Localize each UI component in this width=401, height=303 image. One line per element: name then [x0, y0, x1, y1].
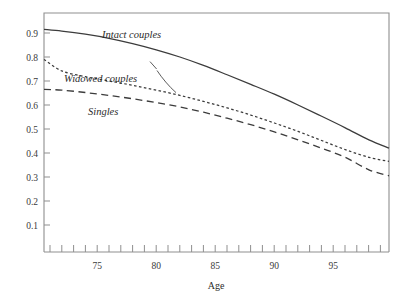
- x-label-75: 75: [92, 261, 102, 271]
- x-axis-ticks: [50, 245, 380, 252]
- series-label-widowed-couples: Widowed couples: [64, 73, 137, 84]
- leader-widowed-couples: [150, 62, 157, 69]
- y-label-0.5: 0.5: [26, 125, 38, 135]
- y-label-0.9: 0.9: [26, 29, 38, 39]
- leader-widowed-couples-2: [157, 71, 176, 93]
- series-label-singles: Singles: [88, 106, 118, 117]
- y-label-0.7: 0.7: [26, 77, 38, 87]
- y-label-0.3: 0.3: [26, 173, 38, 183]
- series-line-intact-couples: [44, 29, 389, 148]
- x-label-95: 95: [328, 261, 338, 271]
- y-label-0.2: 0.2: [26, 197, 38, 207]
- x-label-90: 90: [269, 261, 279, 271]
- chart-figure: 0.9 0.8 0.7 0.6 0.5 0.4 0.3 0.2 0.1: [0, 0, 401, 303]
- series-line-singles: [44, 89, 389, 175]
- x-label-80: 80: [151, 261, 161, 271]
- y-label-0.1: 0.1: [26, 221, 38, 231]
- data-series-group: [44, 29, 389, 175]
- plot-frame: [44, 13, 389, 252]
- y-axis-ticks: [44, 33, 50, 225]
- frame-border: [44, 13, 389, 252]
- x-axis-labels: 75 80 85 90 95: [92, 261, 338, 271]
- y-label-0.8: 0.8: [26, 53, 38, 63]
- series-label-intact-couples: Intact couples: [101, 29, 161, 40]
- x-label-85: 85: [210, 261, 220, 271]
- y-label-0.4: 0.4: [26, 149, 38, 159]
- x-axis-title: Age: [208, 280, 225, 291]
- y-label-0.6: 0.6: [26, 101, 38, 111]
- chart-canvas: 0.9 0.8 0.7 0.6 0.5 0.4 0.3 0.2 0.1: [0, 0, 401, 303]
- label-leaders: [150, 62, 176, 93]
- y-axis-labels: 0.9 0.8 0.7 0.6 0.5 0.4 0.3 0.2 0.1: [26, 29, 38, 231]
- series-annotations: Intact couples Widowed couples Singles: [64, 29, 161, 117]
